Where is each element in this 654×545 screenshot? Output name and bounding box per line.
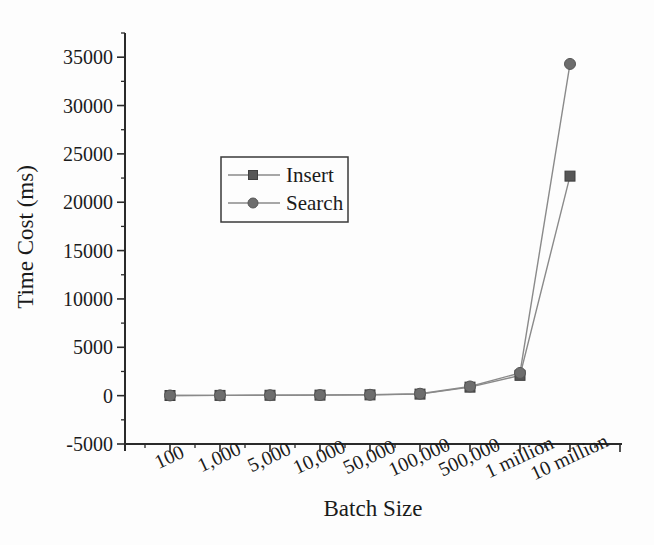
data-point-search — [365, 389, 376, 400]
y-axis-title: Time Cost (ms) — [13, 165, 38, 309]
line-chart-figure: -500005000100001500020000250003000035000… — [0, 0, 654, 545]
y-tick-label: -5000 — [66, 433, 113, 455]
y-tick-label: 15000 — [63, 240, 113, 262]
y-tick-label: 20000 — [63, 191, 113, 213]
legend-label-insert: Insert — [286, 163, 334, 187]
data-point-search — [465, 381, 476, 392]
data-point-search — [415, 388, 426, 399]
data-point-insert — [565, 171, 575, 181]
data-point-search — [565, 58, 576, 69]
y-tick-label: 10000 — [63, 288, 113, 310]
legend-square-marker-icon — [249, 171, 258, 180]
y-tick-label: 35000 — [63, 46, 113, 68]
y-tick-label: 25000 — [63, 143, 113, 165]
chart-canvas: -500005000100001500020000250003000035000… — [0, 0, 654, 545]
data-point-search — [515, 367, 526, 378]
series-line-search — [170, 64, 570, 396]
x-axis-title: Batch Size — [324, 496, 423, 521]
data-point-search — [215, 390, 226, 401]
legend: Insert Search — [221, 157, 348, 222]
data-point-search — [315, 390, 326, 401]
x-tick-label: 10,000 — [289, 435, 348, 478]
data-point-search — [165, 390, 176, 401]
y-tick-label: 30000 — [63, 95, 113, 117]
data-point-search — [265, 390, 276, 401]
x-tick-label: 100 — [151, 440, 187, 473]
series-layer — [165, 58, 576, 401]
legend-label-search: Search — [286, 191, 344, 215]
y-tick-label: 0 — [103, 385, 113, 407]
legend-circle-marker-icon — [248, 198, 258, 208]
y-tick-label: 5000 — [73, 336, 113, 358]
